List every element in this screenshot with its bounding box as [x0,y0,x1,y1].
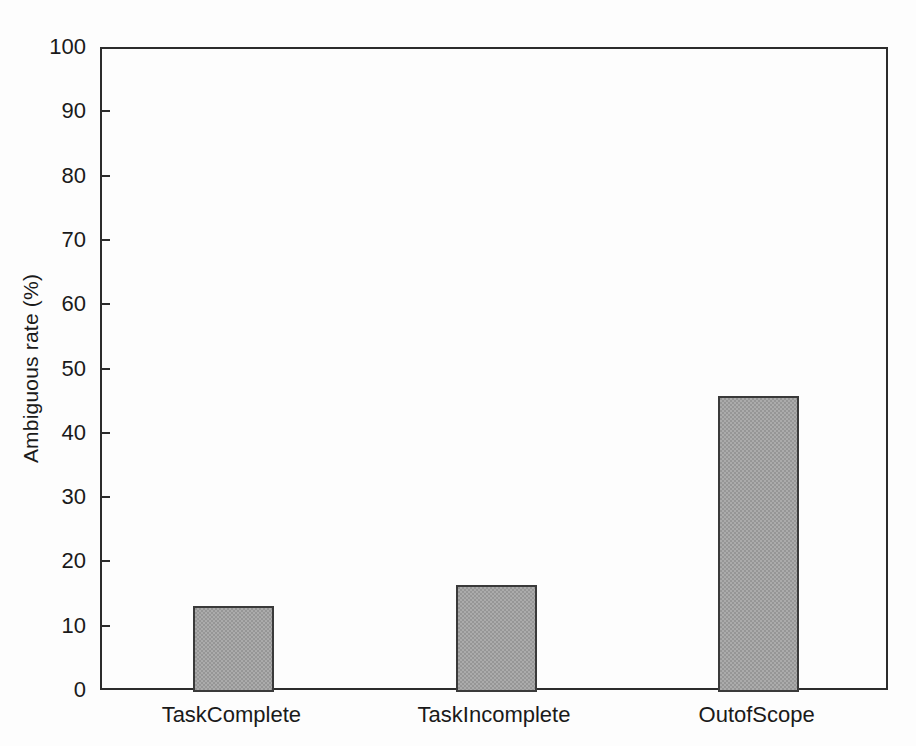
bar [193,606,274,692]
y-tick-label: 80 [62,162,86,190]
y-tick-label: 30 [62,483,86,511]
x-tick-label: TaskComplete [162,700,301,730]
y-axis-title: Ambiguous rate (%) [18,47,44,690]
x-tick-label: OutofScope [699,700,815,730]
x-tick-label: TaskIncomplete [418,700,571,730]
bar [456,585,537,692]
y-tick-label: 20 [62,547,86,575]
y-tick-label: 50 [62,355,86,383]
y-tick-label: 70 [62,226,86,254]
chart-figure: Ambiguous rate (%) 010203040506070809010… [0,0,916,746]
y-tick-label: 10 [62,612,86,640]
y-tick-label: 40 [62,419,86,447]
plot-area [100,47,888,690]
y-tick-label: 100 [49,33,86,61]
y-tick-label: 0 [74,676,86,704]
y-tick-label: 90 [62,97,86,125]
y-tick-label: 60 [62,290,86,318]
bar [718,396,799,692]
